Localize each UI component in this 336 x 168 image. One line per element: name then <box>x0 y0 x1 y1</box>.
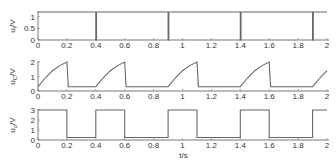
x-tick-label: 1.8 <box>293 92 305 101</box>
x-tick-label: 0.8 <box>148 141 160 150</box>
axis-lines <box>38 11 329 40</box>
y-tick-label: 1 <box>31 126 36 135</box>
x-tick-label: 2 <box>325 141 330 150</box>
x-tick-label: 0 <box>36 92 41 101</box>
y-tick-label: 0.5 <box>24 24 36 33</box>
x-tick-label: 2 <box>325 92 330 101</box>
x-tick-label: 1 <box>180 92 185 101</box>
series-line-u-o <box>38 110 327 138</box>
plot-panel-2: 00.20.40.60.811.21.41.61.82012uC/V <box>8 58 330 101</box>
x-tick-label: 0.4 <box>90 141 102 150</box>
y-axis-label: ui/V <box>8 19 18 33</box>
x-tick-label: 1 <box>180 41 185 50</box>
x-tick-label: 2 <box>325 41 330 50</box>
y-tick-label: 2 <box>31 58 36 67</box>
x-tick-label: 1.6 <box>264 92 276 101</box>
x-tick-label: 0.4 <box>90 92 102 101</box>
x-tick-label: 0 <box>36 141 41 150</box>
x-tick-label: 0.4 <box>90 41 102 50</box>
y-tick-label: 2 <box>31 116 36 125</box>
x-tick-label: 0.6 <box>119 41 131 50</box>
x-tick-label: 1.6 <box>264 141 276 150</box>
x-tick-label: 1.4 <box>235 41 247 50</box>
x-tick-label: 1.2 <box>206 92 218 101</box>
series-line-u-i <box>38 12 327 40</box>
y-axis-label: uC/V <box>8 68 18 85</box>
x-tick-label: 1.4 <box>235 141 247 150</box>
y-axis-label: uo/V <box>8 117 18 133</box>
x-tick-label: 1.8 <box>293 41 305 50</box>
x-tick-label: 1.6 <box>264 41 276 50</box>
y-tick-label: 0 <box>31 36 36 45</box>
y-tick-label: 0 <box>31 87 36 96</box>
x-tick-label: 0.2 <box>61 41 73 50</box>
y-tick-label: 1 <box>31 13 36 22</box>
series-line-u-C <box>38 62 327 87</box>
axis-lines <box>38 109 329 140</box>
waveform-figure: 00.20.40.60.811.21.41.61.8200.51ui/V00.2… <box>0 0 336 168</box>
plot-panel-3: 00.20.40.60.811.21.41.61.820123uo/Vt/s <box>8 106 330 160</box>
x-tick-label: 0 <box>36 41 41 50</box>
x-tick-label: 1 <box>180 141 185 150</box>
x-tick-label: 1.2 <box>206 41 218 50</box>
y-tick-label: 1 <box>31 73 36 82</box>
x-tick-label: 1.8 <box>293 141 305 150</box>
plot-panel-1: 00.20.40.60.811.21.41.61.8200.51ui/V <box>8 11 330 50</box>
x-tick-label: 0.8 <box>148 92 160 101</box>
x-tick-label: 0.2 <box>61 141 73 150</box>
x-tick-label: 1.2 <box>206 141 218 150</box>
y-tick-label: 3 <box>31 106 36 115</box>
x-tick-label: 0.2 <box>61 92 73 101</box>
x-axis-label: t/s <box>179 151 187 160</box>
x-tick-label: 0.8 <box>148 41 160 50</box>
y-tick-label: 0 <box>31 136 36 145</box>
x-tick-label: 1.4 <box>235 92 247 101</box>
x-tick-label: 0.6 <box>119 92 131 101</box>
x-tick-label: 0.6 <box>119 141 131 150</box>
